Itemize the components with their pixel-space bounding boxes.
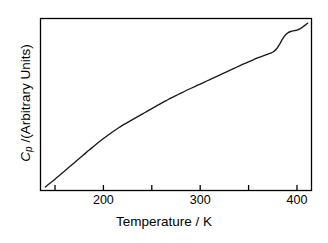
x-tick-label-400: 400 (277, 193, 317, 207)
plot-frame (41, 19, 312, 191)
x-tick-label-300: 300 (180, 193, 220, 207)
y-axis-title-units: /(Arbitrary Units) (18, 44, 33, 146)
y-axis-title-symbol: C (18, 152, 33, 162)
chart-figure: 200 300 400 Temperature / K Cp /(Arbitra… (0, 0, 328, 243)
x-axis-title: Temperature / K (0, 214, 328, 229)
y-axis-title-subscript: p (23, 146, 34, 152)
x-tick-label-200: 200 (83, 193, 123, 207)
y-axis-title-container: Cp /(Arbitrary Units) (16, 3, 36, 203)
y-axis-title: Cp /(Arbitrary Units) (18, 44, 34, 161)
